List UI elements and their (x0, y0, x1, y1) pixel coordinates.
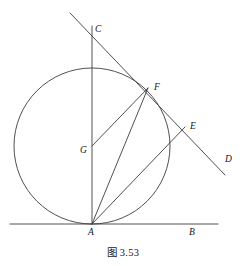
segment-g-to-f (92, 88, 148, 146)
point-label-a: A (88, 228, 94, 238)
segment-a-to-e (92, 127, 185, 224)
point-label-d: D (225, 155, 232, 165)
point-label-f: F (154, 83, 160, 93)
point-label-g: G (80, 146, 87, 156)
geometry-canvas (0, 0, 246, 266)
figure-caption: 图 3.53 (0, 244, 246, 259)
point-label-c: C (95, 25, 101, 35)
geometry-figure: A B C D E F G 图 3.53 (0, 0, 246, 266)
point-label-b: B (189, 228, 195, 238)
point-label-e: E (190, 122, 196, 132)
line-cd-tangent (70, 13, 225, 175)
segment-a-to-f (92, 88, 148, 224)
